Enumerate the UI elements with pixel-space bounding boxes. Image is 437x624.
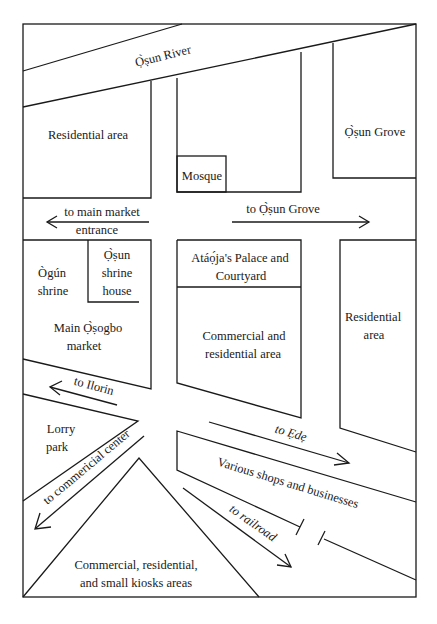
residential-area-e-label-2: area [364, 328, 385, 342]
main-market-block: Ògún shrine Ọ̀ṣun shrine house Main Ọ̀ṣo… [23, 240, 151, 389]
commercial-residential-label-2: residential area [205, 347, 281, 361]
osun-grove: Ọ̀ṣun Grove [333, 43, 416, 178]
lorry-park-label: Lorry [47, 422, 76, 436]
ogun-shrine-label: Ògún [38, 266, 67, 280]
osun-shrine-house-label-3: house [102, 284, 132, 298]
kiosks-area-label: Commercial, residential, [74, 558, 197, 572]
osun-river-label: Ọ̀ṣun River [134, 42, 194, 70]
lorry-park: Lorry park [23, 394, 138, 501]
osun-grove-arrow: to Ọ̀ṣun Grove [232, 202, 369, 228]
main-market-arrow-label: to main market [64, 205, 140, 219]
lorry-park-label-2: park [46, 440, 69, 454]
ede-arrow-label: to Ẹdẹ [274, 422, 309, 444]
ogun-shrine-label-2: shrine [38, 284, 69, 298]
residential-area-nw: Residential area [23, 81, 151, 198]
town-map: Ọ̀ṣun River Residential area Mosque Ọ̀ṣu… [0, 0, 437, 624]
commercial-center-arrow-label: to commericial center [40, 426, 133, 507]
residential-area-nw-label: Residential area [48, 128, 129, 142]
residential-area-e-label: Residential [345, 310, 402, 324]
kiosks-area-label-2: and small kiosks areas [80, 576, 192, 590]
palace-label-2: Courtyard [216, 269, 267, 283]
residential-area-e: Residential area [340, 240, 416, 452]
shops-block: Various shops and businesses [177, 431, 416, 580]
main-market-label-2: market [67, 339, 102, 353]
osun-shrine-house-label: Ọ̀ṣun [104, 248, 131, 262]
osun-grove-arrow-label: to Ọ̀ṣun Grove [246, 202, 320, 216]
main-market-label: Main Ọ̀ṣogbo [54, 321, 122, 335]
main-market-arrow: to main market entrance [47, 205, 149, 237]
commercial-residential-label: Commercial and [203, 329, 287, 343]
mosque-label: Mosque [182, 169, 223, 183]
palace-commercial-block: Atáọ́ja's Palace and Courtyard Commercia… [177, 240, 301, 418]
palace-label: Atáọ́ja's Palace and [191, 251, 289, 265]
main-market-arrow-label-2: entrance [76, 223, 119, 237]
kiosks-area: Commercial, residential, and small kiosk… [23, 458, 259, 597]
railroad-arrow-label: to railroad [227, 502, 280, 545]
mosque-block: Mosque [177, 52, 301, 192]
osun-river: Ọ̀ṣun River [23, 24, 416, 107]
osun-shrine-house-label-2: shrine [102, 266, 133, 280]
osun-grove-label: Ọ̀ṣun Grove [345, 125, 406, 139]
